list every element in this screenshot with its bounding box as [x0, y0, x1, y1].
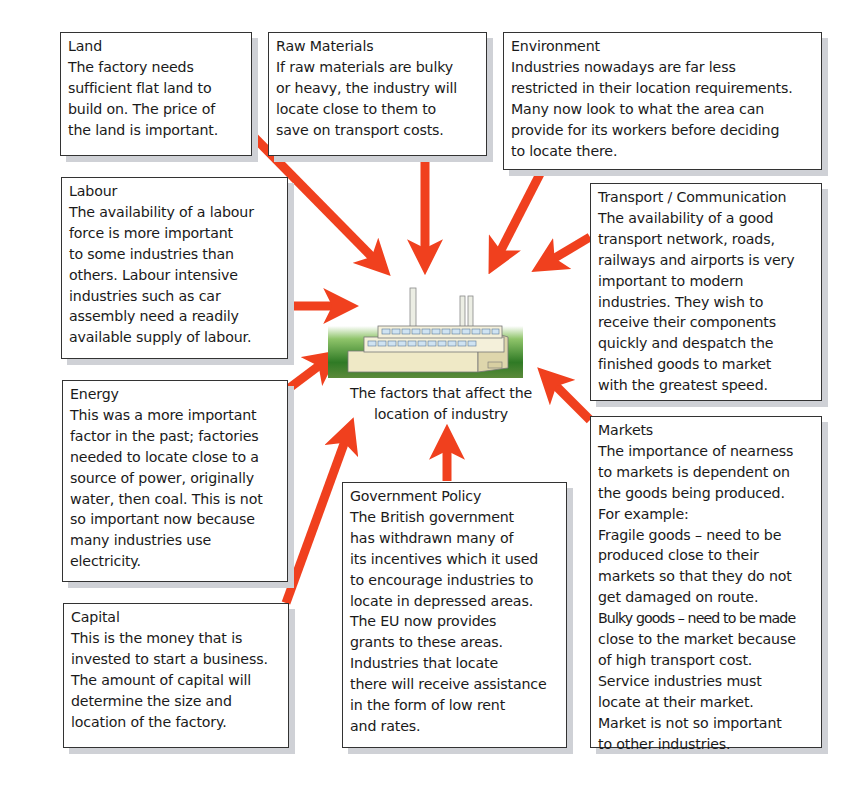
factor-text: to other industries. [598, 734, 815, 755]
diagram-caption: The factors that affect the location of … [333, 383, 549, 425]
factor-text: invested to start a business. [71, 649, 282, 670]
factory-icon [328, 282, 523, 378]
factor-title: Land [68, 36, 245, 57]
factor-box-government-policy: Government Policy The British government… [342, 482, 567, 748]
factor-text: Bulky goods – need to be made [598, 608, 815, 629]
factor-text: For example: [598, 504, 815, 525]
factor-text: Market is not so important [598, 713, 815, 734]
caption-line: location of industry [333, 404, 549, 425]
factor-text: so important now because [70, 509, 281, 530]
factor-text: and rates. [350, 716, 560, 737]
factor-text: transport network, roads, [598, 229, 815, 250]
factor-text: sufficient flat land to [68, 78, 245, 99]
factor-text: If raw materials are bulky [276, 57, 480, 78]
factor-text: industries. They wish to [598, 292, 815, 313]
factor-text: Industries that locate [350, 653, 560, 674]
factor-text: industries such as car [69, 286, 281, 307]
factor-text: with the greatest speed. [598, 375, 815, 396]
factor-text: close to the market because [598, 629, 815, 650]
factor-text: or heavy, the industry will [276, 78, 480, 99]
factor-text: grants to these areas. [350, 632, 560, 653]
factor-box-land: Land The factory needs sufficient flat l… [60, 32, 252, 156]
factor-text: The EU now provides [350, 611, 560, 632]
factor-text: restricted in their location requirement… [511, 78, 815, 99]
factor-text: The availability of a labour [69, 202, 281, 223]
factor-text: markets so that they do not [598, 566, 815, 587]
arrow-capital [286, 441, 345, 603]
factor-text: The British government [350, 507, 560, 528]
factor-text: produced close to their [598, 545, 815, 566]
factor-title: Energy [70, 384, 281, 405]
factor-box-markets: Markets The importance of nearness to ma… [590, 416, 822, 748]
factor-text: factor in the past; factories [70, 426, 281, 447]
factor-title: Environment [511, 36, 815, 57]
factor-text: This is the money that is [71, 628, 282, 649]
factor-box-raw-materials: Raw Materials If raw materials are bulky… [268, 32, 487, 156]
factor-box-capital: Capital This is the money that is invest… [63, 603, 289, 748]
factor-text: locate in depressed areas. [350, 591, 560, 612]
factor-text: receive their components [598, 312, 815, 333]
factor-text: to markets is dependent on [598, 462, 815, 483]
factor-text: The availability of a good [598, 208, 815, 229]
factor-text: of high transport cost. [598, 650, 815, 671]
factor-text: there will receive assistance [350, 674, 560, 695]
factor-box-transport: Transport / Communication The availabili… [590, 183, 822, 401]
factor-text: The importance of nearness [598, 441, 815, 462]
factor-text: determine the size and [71, 691, 282, 712]
factor-text: its incentives which it used [350, 549, 560, 570]
factor-text: locate at their market. [598, 692, 815, 713]
factor-box-environment: Environment Industries nowadays are far … [503, 32, 822, 170]
arrow-transport [553, 237, 590, 259]
factor-box-energy: Energy This was a more important factor … [62, 380, 288, 582]
factor-text: provide for its workers before deciding [511, 120, 815, 141]
factor-text: The amount of capital will [71, 670, 282, 691]
factor-text: electricity. [70, 551, 281, 572]
arrow-energy [288, 365, 320, 389]
factor-text: others. Labour intensive [69, 265, 281, 286]
factor-title: Labour [69, 181, 281, 202]
factor-text: assembly need a readily [69, 306, 281, 327]
factor-text: build on. The price of [68, 99, 245, 120]
factor-text: many industries use [70, 530, 281, 551]
factor-text: source of power, originally [70, 468, 281, 489]
factor-text: the goods being produced. [598, 483, 815, 504]
factor-text: railways and airports is very [598, 250, 815, 271]
factor-text: Many now look to what the area can [511, 99, 815, 120]
factor-text: to locate there. [511, 141, 815, 162]
factor-text: Industries nowadays are far less [511, 57, 815, 78]
factor-title: Raw Materials [276, 36, 480, 57]
factor-text: in the form of low rent [350, 695, 560, 716]
factor-box-labour: Labour The availability of a labour forc… [61, 177, 288, 359]
factor-text: water, then coal. This is not [70, 489, 281, 510]
factor-text: force is more important [69, 223, 281, 244]
factor-text: available supply of labour. [69, 327, 281, 348]
factor-text: needed to locate close to a [70, 447, 281, 468]
factor-text: to some industries than [69, 244, 281, 265]
arrow-markets [555, 385, 590, 420]
factor-text: get damaged on route. [598, 587, 815, 608]
factor-text: has withdrawn many of [350, 528, 560, 549]
factor-text: quickly and despatch the [598, 333, 815, 354]
factor-text: important to modern [598, 271, 815, 292]
factor-title: Markets [598, 420, 815, 441]
factor-text: This was a more important [70, 405, 281, 426]
factor-text: location of the factory. [71, 712, 282, 733]
factor-text: Fragile goods – need to be [598, 525, 815, 546]
factor-text: Service industries must [598, 671, 815, 692]
factor-title: Capital [71, 607, 282, 628]
factor-text: The factory needs [68, 57, 245, 78]
factor-text: finished goods to market [598, 354, 815, 375]
factor-text: the land is important. [68, 120, 245, 141]
factor-text: save on transport costs. [276, 120, 480, 141]
factor-title: Government Policy [350, 486, 560, 507]
factor-text: locate close to them to [276, 99, 480, 120]
factor-title: Transport / Communication [598, 187, 815, 208]
factor-text: to encourage industries to [350, 570, 560, 591]
arrow-environment [500, 170, 542, 252]
caption-line: The factors that affect the [333, 383, 549, 404]
